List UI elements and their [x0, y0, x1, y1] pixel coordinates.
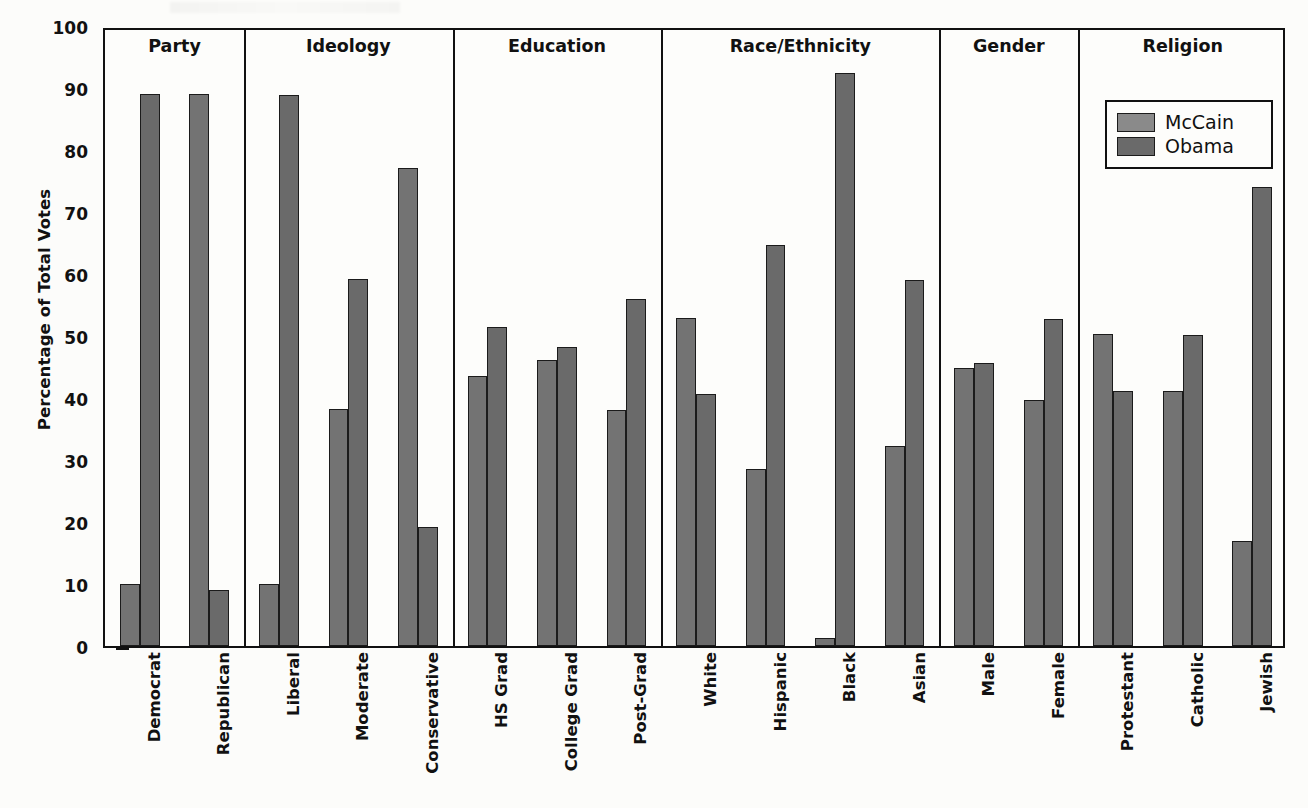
bar-obama-white	[696, 394, 716, 646]
bar-obama-black	[835, 73, 855, 646]
election-exit-poll-bar-chart: Percentage of Total Votes 01020304050607…	[0, 0, 1308, 808]
x-category-label: Asian	[910, 652, 929, 703]
legend-label-obama: Obama	[1165, 135, 1234, 157]
bar-obama-male	[974, 363, 994, 646]
x-category-label: Catholic	[1188, 652, 1207, 727]
group-label: Gender	[939, 36, 1078, 56]
bar-obama-protestant	[1113, 391, 1133, 646]
bar-mccain-male	[954, 368, 974, 646]
x-category-label: Democrat	[145, 652, 164, 742]
bar-obama-republican	[209, 590, 229, 646]
bar-obama-liberal	[279, 95, 299, 646]
bar-obama-jewish	[1252, 187, 1272, 646]
bar-obama-democrat	[140, 94, 160, 646]
bar-mccain-democrat	[120, 584, 140, 646]
x-category-label: Republican	[214, 652, 233, 755]
x-category-label: Jewish	[1257, 652, 1276, 712]
group-label: Party	[105, 36, 244, 56]
bar-obama-hispanic	[766, 245, 786, 646]
bar-obama-asian	[905, 280, 925, 646]
x-category-label: Female	[1049, 652, 1068, 719]
x-category-label: College Grad	[562, 652, 581, 771]
legend-item-obama: Obama	[1117, 135, 1261, 157]
bar-mccain-conservative	[398, 168, 418, 646]
x-category-label: White	[701, 652, 720, 707]
bar-obama-college-grad	[557, 347, 577, 646]
bar-mccain-republican	[189, 94, 209, 646]
scan-artifact	[170, 2, 400, 13]
x-category-label: Post-Grad	[631, 652, 650, 745]
bar-mccain-jewish	[1232, 541, 1252, 646]
legend-label-mccain: McCain	[1165, 111, 1234, 133]
group-label: Religion	[1078, 36, 1287, 56]
x-category-label: Conservative	[423, 652, 442, 774]
x-category-label: Moderate	[353, 652, 372, 741]
bar-obama-female	[1044, 319, 1064, 646]
bar-obama-moderate	[348, 279, 368, 646]
bar-mccain-catholic	[1163, 391, 1183, 646]
group-label: Race/Ethnicity	[661, 36, 939, 56]
bar-mccain-protestant	[1093, 334, 1113, 646]
group-separator	[661, 30, 663, 646]
x-category-label: Liberal	[284, 652, 303, 716]
bar-mccain-moderate	[329, 409, 349, 646]
legend: McCain Obama	[1105, 100, 1273, 169]
bar-mccain-liberal	[259, 584, 279, 646]
x-axis-category-labels: DemocratRepublicanLiberalModerateConserv…	[103, 652, 1285, 808]
y-tick-mark	[116, 648, 129, 650]
x-category-label: Black	[840, 652, 859, 702]
bar-mccain-black	[815, 638, 835, 646]
group-separator	[453, 30, 455, 646]
x-category-label: Protestant	[1118, 652, 1137, 751]
bar-mccain-college-grad	[537, 360, 557, 646]
bar-obama-conservative	[418, 527, 438, 646]
group-separator	[939, 30, 941, 646]
group-label: Ideology	[244, 36, 453, 56]
group-label: Education	[453, 36, 662, 56]
legend-swatch-obama	[1117, 137, 1155, 156]
bar-mccain-hs-grad	[468, 376, 488, 646]
x-category-label: Male	[979, 652, 998, 696]
legend-swatch-mccain	[1117, 113, 1155, 132]
y-axis-tick-labels: 0102030405060708090100	[26, 28, 88, 648]
x-category-label: Hispanic	[771, 652, 790, 731]
bar-mccain-hispanic	[746, 469, 766, 646]
bar-obama-post-grad	[626, 299, 646, 646]
x-category-label: HS Grad	[492, 652, 511, 728]
bar-obama-catholic	[1183, 335, 1203, 646]
bar-mccain-female	[1024, 400, 1044, 646]
bar-obama-hs-grad	[487, 327, 507, 646]
bar-mccain-asian	[885, 446, 905, 646]
bar-mccain-post-grad	[607, 410, 627, 646]
legend-item-mccain: McCain	[1117, 111, 1261, 133]
bar-mccain-white	[676, 318, 696, 646]
group-separator	[244, 30, 246, 646]
group-separator	[1078, 30, 1080, 646]
